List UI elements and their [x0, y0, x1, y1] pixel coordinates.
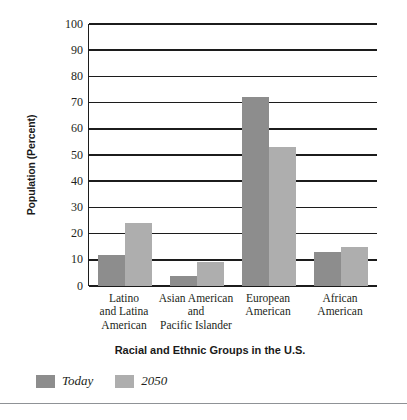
category-label-line: Pacific Islander: [152, 319, 240, 332]
bar-2050: [269, 147, 296, 286]
y-tick-label-70: 70: [49, 96, 83, 108]
y-tick-label-0: 0: [49, 280, 83, 292]
bar-2050: [197, 262, 224, 286]
bar-group: [314, 24, 368, 286]
bar-chart-figure: Population (Percent) 1009080706050403020…: [0, 0, 407, 420]
y-tick-label-20: 20: [49, 227, 83, 239]
y-axis-title-label: Population (Percent): [25, 115, 37, 216]
bar-group: [98, 24, 152, 286]
bar-series-container: [89, 24, 377, 286]
legend-swatch-icon: [36, 375, 55, 388]
legend-label: Today: [62, 373, 93, 389]
bar-today: [314, 252, 341, 286]
plot-area: [88, 24, 376, 286]
category-label-line: African: [296, 292, 384, 305]
y-tick-label-100: 100: [49, 18, 83, 30]
bar-group: [170, 24, 224, 286]
bar-today: [242, 97, 269, 286]
y-tick-label-40: 40: [49, 175, 83, 187]
y-tick-label-10: 10: [49, 253, 83, 265]
x-axis-category-labels: Latinoand LatinaAmericanAsian Americanan…: [88, 292, 376, 338]
legend-swatch-icon: [115, 375, 134, 388]
y-tick-label-50: 50: [49, 149, 83, 161]
bottom-divider: [0, 403, 407, 404]
category-label-line: American: [296, 305, 384, 318]
bar-today: [98, 255, 125, 286]
category-label: AfricanAmerican: [296, 292, 384, 319]
y-tick-label-60: 60: [49, 122, 83, 134]
legend-label: 2050: [141, 373, 167, 389]
legend-item: Today: [36, 373, 93, 389]
y-tick-label-80: 80: [49, 70, 83, 82]
bar-2050: [125, 223, 152, 286]
chart-legend: Today2050: [36, 373, 189, 389]
x-axis-title: Racial and Ethnic Groups in the U.S.: [60, 344, 360, 356]
y-tick-label-90: 90: [49, 44, 83, 56]
y-tick-label-30: 30: [49, 201, 83, 213]
legend-item: 2050: [115, 373, 167, 389]
y-axis-tick-labels: 1009080706050403020100: [45, 24, 83, 286]
bar-today: [170, 276, 197, 286]
bar-2050: [341, 247, 368, 286]
y-axis-title: Population (Percent): [23, 100, 39, 230]
bar-group: [242, 24, 296, 286]
